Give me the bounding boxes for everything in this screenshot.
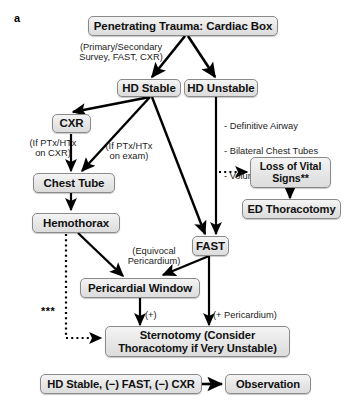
annotation-ptx-on-cxr: (If PTx/HTx on CXR) [14, 138, 92, 159]
node-hemothorax[interactable]: Hemothorax [32, 213, 120, 233]
node-ed-thoracotomy[interactable]: ED Thoracotomy [242, 199, 341, 219]
node-chest-tube[interactable]: Chest Tube [33, 173, 115, 193]
annotation-positive-pericardium: (+ Pericardium) [213, 310, 295, 320]
node-hd-stable[interactable]: HD Stable [117, 79, 181, 97]
node-observation[interactable]: Observation [225, 374, 311, 394]
list-item: - Bilateral Chest Tubes [224, 145, 354, 157]
node-hd-stable-negative-workup[interactable]: HD Stable, (−) FAST, (−) CXR [40, 374, 202, 394]
edge-hd-stable-to-fast [152, 97, 205, 234]
annotation-triple-asterisk: *** [41, 305, 55, 317]
annotation-positive: (+) [145, 310, 173, 320]
edge-root-to-hd-unstable [188, 36, 215, 77]
node-fast[interactable]: FAST [192, 236, 229, 256]
figure-panel-a: a [0, 0, 355, 414]
node-hd-unstable[interactable]: HD Unstable [184, 79, 258, 97]
annotation-equivocal-pericardium: (Equivocal Pericardium) [117, 246, 191, 267]
node-cxr[interactable]: CXR [52, 114, 91, 133]
annotation-primary-survey: (Primary/Secondary Survey, FAST, CXR) [58, 42, 184, 63]
annotation-ptx-on-exam: (If PTx/HTx on exam) [89, 141, 169, 162]
node-root[interactable]: Penetrating Trauma: Cardiac Box [88, 16, 278, 36]
list-item: - Definitive Airway [224, 120, 354, 132]
node-pericardial-window[interactable]: Pericardial Window [80, 278, 200, 298]
node-loss-of-vital-signs[interactable]: Loss of Vital Signs** [250, 157, 331, 188]
node-sternotomy[interactable]: Sternotomy (Consider Thoracotomy if Very… [105, 326, 290, 357]
